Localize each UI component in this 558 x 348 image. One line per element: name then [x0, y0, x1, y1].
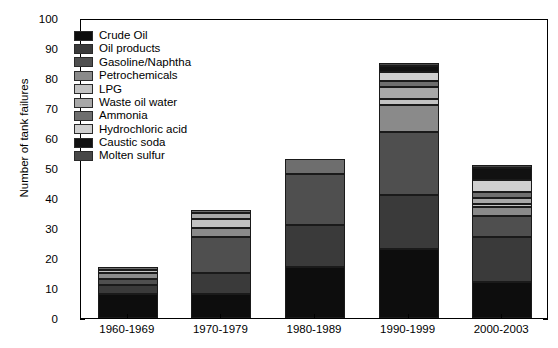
legend-label: Molten sulfur	[99, 150, 165, 162]
bar-segment	[472, 216, 532, 237]
legend-item: Petrochemicals	[74, 69, 191, 82]
legend-label: LPG	[99, 84, 122, 96]
bar-segment	[98, 267, 158, 270]
stacked-bar	[285, 159, 345, 318]
bar-segment	[191, 213, 251, 219]
legend-swatch-icon	[74, 98, 93, 108]
bar-segment	[472, 165, 532, 168]
bar-segment	[285, 225, 345, 267]
legend-swatch-icon	[74, 31, 93, 41]
legend-item: Ammonia	[74, 109, 191, 122]
x-tick-label: 2000-2003	[474, 323, 529, 335]
stacked-bar	[98, 267, 158, 318]
bar-segment	[379, 249, 439, 318]
legend-label: Ammonia	[99, 110, 148, 122]
legend-label: Crude Oil	[99, 30, 148, 42]
legend-item: Gasoline/Naphtha	[74, 56, 191, 69]
legend-swatch-icon	[74, 124, 93, 134]
bar-segment	[191, 219, 251, 228]
legend-swatch-icon	[74, 84, 93, 94]
bar-segment	[285, 159, 345, 174]
legend-item: Hydrochloric acid	[74, 123, 191, 136]
x-tick-mark	[127, 314, 128, 319]
y-tick-label: 10	[0, 284, 58, 296]
bar-segment	[472, 180, 532, 192]
bar-segment	[379, 63, 439, 66]
bar-segment	[379, 195, 439, 249]
legend-item: Oil products	[74, 42, 191, 55]
legend-swatch-icon	[74, 138, 93, 148]
x-tick-mark	[408, 314, 409, 319]
y-tick-mark-right	[543, 319, 548, 320]
stacked-bar	[191, 210, 251, 318]
legend-label: Gasoline/Naphtha	[99, 57, 191, 69]
legend-swatch-icon	[74, 71, 93, 81]
bar-segment	[98, 279, 158, 285]
bar-segment	[379, 72, 439, 81]
legend-item: Caustic soda	[74, 136, 191, 149]
bar-segment	[191, 273, 251, 294]
x-tick-mark	[314, 314, 315, 319]
bar-segment	[98, 294, 158, 318]
bar-segment	[379, 132, 439, 195]
bar-segment	[379, 81, 439, 87]
bar-segment	[472, 237, 532, 282]
y-axis-title: Number of tank failures	[18, 38, 30, 238]
chart-root: 0102030405060708090100 Number of tank fa…	[0, 0, 558, 348]
bar-segment	[191, 237, 251, 273]
legend-item: LPG	[74, 83, 191, 96]
legend-label: Oil products	[99, 43, 160, 55]
stacked-bar	[472, 165, 532, 318]
bar-segment	[285, 267, 345, 318]
y-tick-label: 100	[0, 14, 58, 26]
bar-segment	[191, 294, 251, 318]
legend-label: Caustic soda	[99, 137, 165, 149]
bar-segment	[379, 66, 439, 72]
legend-label: Waste oil water	[99, 97, 177, 109]
bar-segment	[472, 207, 532, 216]
x-tick-mark	[501, 314, 502, 319]
bar-segment	[191, 228, 251, 237]
bar-segment	[191, 210, 251, 213]
legend-swatch-icon	[74, 57, 93, 67]
bar-segment	[472, 204, 532, 207]
legend-label: Petrochemicals	[99, 70, 178, 82]
bar-segment	[98, 285, 158, 294]
bar-segment	[379, 87, 439, 99]
x-tick-label: 1970-1979	[193, 323, 248, 335]
legend-swatch-icon	[74, 151, 93, 161]
stacked-bar	[379, 63, 439, 318]
bar-segment	[379, 105, 439, 132]
bar-segment	[472, 282, 532, 318]
bar-segment	[472, 168, 532, 180]
y-tick-label: 0	[0, 314, 58, 326]
legend-item: Molten sulfur	[74, 150, 191, 163]
legend-swatch-icon	[74, 44, 93, 54]
bar-segment	[472, 192, 532, 198]
bar-segment	[98, 270, 158, 273]
chart-legend: Crude OilOil productsGasoline/NaphthaPet…	[72, 27, 195, 165]
bar-segment	[379, 99, 439, 105]
y-tick-mark	[80, 319, 85, 320]
bar-segment	[285, 174, 345, 225]
legend-swatch-icon	[74, 111, 93, 121]
bar-segment	[98, 273, 158, 279]
bar-segment	[472, 198, 532, 204]
legend-item: Crude Oil	[74, 29, 191, 42]
x-tick-label: 1960-1969	[99, 323, 154, 335]
x-tick-label: 1990-1999	[380, 323, 435, 335]
x-tick-mark	[220, 314, 221, 319]
legend-label: Hydrochloric acid	[99, 124, 187, 136]
x-tick-label: 1980-1989	[287, 323, 342, 335]
legend-item: Waste oil water	[74, 96, 191, 109]
y-tick-label: 20	[0, 254, 58, 266]
